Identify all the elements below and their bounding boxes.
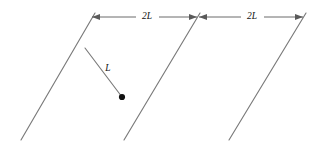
wall-line-left	[21, 13, 95, 140]
dimension-label-left: 2L	[142, 11, 152, 21]
dimension-label-right: 2L	[247, 11, 257, 21]
dimension-2l-left: 2L	[92, 11, 197, 21]
pendulum-diagram: 2L 2L L	[0, 0, 322, 150]
arrow-head-right-start-icon	[199, 14, 207, 20]
wall-line-right	[229, 13, 306, 140]
pendulum: L	[85, 48, 125, 100]
wall-line-middle	[124, 13, 200, 140]
pendulum-rod	[85, 48, 122, 97]
pendulum-bob	[119, 94, 125, 100]
pendulum-length-label: L	[104, 63, 110, 73]
dimension-2l-right: 2L	[199, 11, 303, 21]
diagram-canvas: 2L 2L L	[0, 0, 322, 150]
